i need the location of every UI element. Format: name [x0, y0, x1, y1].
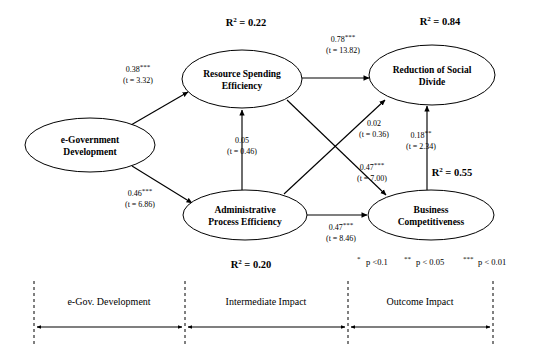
- node-business-competitiveness-shape: [368, 190, 494, 240]
- r2-label-reduction-of-social-divide: R2 = 0.84: [420, 15, 461, 27]
- svg-text:0.38***: 0.38***: [126, 63, 151, 74]
- svg-text:R2 = 0.22: R2 = 0.22: [226, 16, 267, 28]
- path-label-administrative-process-to-reduction-social-divide: 0.02 (t = 0.36): [359, 119, 389, 139]
- band-label-egov-development: e-Gov. Development: [67, 296, 150, 307]
- path-tvalue-0: (t = 3.32): [123, 76, 153, 85]
- node-egov-development: e-Government Development: [25, 118, 155, 172]
- path-stars-7: ***: [343, 221, 354, 229]
- svg-text:R2 = 0.20: R2 = 0.20: [231, 258, 272, 270]
- r2-value-rsd: = 0.84: [431, 16, 461, 27]
- legend-stars-0: *: [357, 255, 361, 263]
- svg-text:0.46***: 0.46***: [128, 187, 153, 198]
- legend-stars-1: **: [404, 255, 412, 263]
- significance-legend: * p <0.1 ** p < 0.05 *** p < 0.01: [357, 255, 506, 267]
- figure-canvas: e-Government Development Resource Spendi…: [0, 0, 533, 362]
- svg-text:0.18**: 0.18**: [411, 129, 433, 140]
- legend-text-2: p < 0.01: [478, 257, 506, 267]
- node-egov-development-label-line2: Development: [63, 147, 117, 157]
- svg-text:0.78***: 0.78***: [331, 33, 356, 44]
- path-stars-0: ***: [140, 63, 151, 71]
- node-resource-spending-efficiency-label-line2: Efficiency: [222, 81, 263, 91]
- node-administrative-process-efficiency-shape: [183, 190, 307, 240]
- path-stars-5: ***: [374, 161, 385, 169]
- svg-text:R2 = 0.84: R2 = 0.84: [420, 15, 461, 27]
- path-tvalue-6: (t = 2.34): [406, 142, 436, 151]
- path-coefficient-4: 0.02: [367, 119, 381, 128]
- path-tvalue-5: (t = 7.00): [357, 174, 387, 183]
- path-coefficient-5: 0.47: [360, 163, 374, 172]
- node-reduction-of-social-divide: Reduction of Social Divide: [369, 45, 495, 105]
- stage-band: e-Gov. Development Intermediate Impact O…: [34, 281, 493, 344]
- node-business-competitiveness: Business Competitiveness: [368, 190, 494, 240]
- svg-text:0.47***: 0.47***: [360, 161, 385, 172]
- node-resource-spending-efficiency-label-line1: Resource Spending: [203, 69, 281, 79]
- node-egov-development-shape: [25, 118, 155, 172]
- legend-text-0: p <0.1: [366, 257, 388, 267]
- node-reduction-of-social-divide-label-line1: Reduction of Social: [393, 65, 472, 75]
- node-resource-spending-efficiency: Resource Spending Efficiency: [182, 50, 302, 108]
- band-label-outcome-impact: Outcome Impact: [387, 296, 454, 307]
- path-label-egov-to-administrative-process: 0.46*** (t = 6.86): [125, 187, 155, 209]
- edge-egov-to-resource-spending: [131, 92, 188, 125]
- path-tvalue-1: (t = 6.86): [125, 200, 155, 209]
- path-tvalue-4: (t = 0.36): [359, 130, 389, 139]
- path-coefficient-1: 0.46: [128, 189, 142, 198]
- path-label-administrative-process-to-business-competitiveness: 0.47*** (t = 8.46): [326, 221, 356, 243]
- path-diagram: e-Government Development Resource Spendi…: [0, 0, 533, 362]
- node-administrative-process-efficiency-label-line2: Process Efficiency: [208, 217, 282, 227]
- node-reduction-of-social-divide-label-line2: Divide: [419, 77, 445, 87]
- r2-label-business-competitiveness: R2 = 0.55: [432, 166, 473, 178]
- r2-value-ape: = 0.20: [242, 259, 272, 270]
- svg-text:0.47***: 0.47***: [329, 221, 354, 232]
- path-label-business-competitiveness-to-reduction-social-divide: 0.18** (t = 2.34): [406, 129, 436, 151]
- path-coefficient-0: 0.38: [126, 65, 140, 74]
- svg-text:R2 = 0.55: R2 = 0.55: [432, 166, 473, 178]
- path-coefficient-2: 0.78: [331, 35, 345, 44]
- r2-value-rse: = 0.22: [237, 17, 267, 28]
- r2-label-resource-spending-efficiency: R2 = 0.22: [226, 16, 267, 28]
- path-stars-6: **: [425, 129, 433, 137]
- legend-text-1: p < 0.05: [416, 257, 444, 267]
- path-stars-1: ***: [142, 187, 153, 195]
- r2-label-administrative-process-efficiency: R2 = 0.20: [231, 258, 272, 270]
- path-label-egov-to-resource-spending: 0.38*** (t = 3.32): [123, 63, 153, 85]
- node-administrative-process-efficiency: Administrative Process Efficiency: [183, 190, 307, 240]
- path-stars-2: ***: [345, 33, 356, 41]
- band-label-intermediate-impact: Intermediate Impact: [226, 296, 307, 307]
- node-resource-spending-efficiency-shape: [182, 50, 302, 108]
- legend-stars-2: ***: [463, 255, 474, 263]
- path-label-resource-spending-to-reduction-social-divide: 0.78*** (t = 13.82): [326, 33, 360, 55]
- node-administrative-process-efficiency-label-line1: Administrative: [214, 205, 275, 215]
- r2-value-bc: = 0.55: [443, 167, 473, 178]
- path-tvalue-3: (t = 0.46): [227, 147, 257, 156]
- path-coefficient-6: 0.18: [411, 131, 425, 140]
- node-business-competitiveness-label-line1: Business: [414, 205, 449, 215]
- node-reduction-of-social-divide-shape: [369, 45, 495, 105]
- path-tvalue-7: (t = 8.46): [326, 234, 356, 243]
- path-tvalue-2: (t = 13.82): [326, 46, 360, 55]
- path-coefficient-3: 0.05: [235, 136, 249, 145]
- node-egov-development-label-line1: e-Government: [61, 135, 120, 145]
- node-business-competitiveness-label-line2: Competitiveness: [398, 217, 465, 227]
- path-coefficient-7: 0.47: [329, 223, 343, 232]
